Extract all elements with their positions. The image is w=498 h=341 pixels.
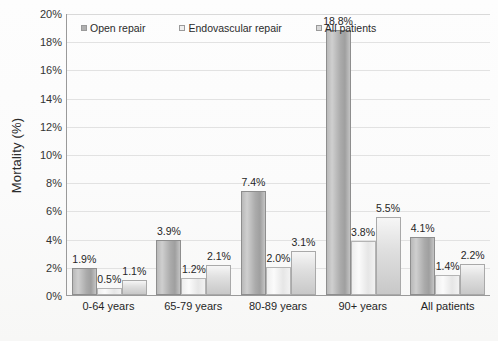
legend-item-1[interactable]: Endovascular repair xyxy=(179,22,281,34)
y-axis-tick-14: 14% xyxy=(40,93,62,105)
bar-fill xyxy=(72,268,97,295)
bar-fill xyxy=(266,267,291,295)
bar-group-4: 4.1%1.4%2.2% xyxy=(405,14,490,295)
bar-1-2[interactable]: 2.1% xyxy=(206,265,231,295)
bar-slot: 1.1% xyxy=(122,14,147,295)
y-axis-tick-16: 16% xyxy=(40,64,62,76)
bar-0-1[interactable]: 0.5% xyxy=(97,288,122,295)
bar-group-2: 7.4%2.0%3.1% xyxy=(236,14,321,295)
bar-value-label: 7.4% xyxy=(242,176,266,188)
bar-slot: 3.9% xyxy=(156,14,181,295)
bar-3-0[interactable]: 18.8% xyxy=(326,30,351,295)
bar-value-label: 2.1% xyxy=(207,250,231,262)
bar-slot: 5.5% xyxy=(376,14,401,295)
bar-slot: 1.2% xyxy=(181,14,206,295)
legend-swatch-icon xyxy=(316,25,322,31)
bar-group-1: 3.9%1.2%2.1% xyxy=(152,14,237,295)
bar-slot: 3.8% xyxy=(351,14,376,295)
bar-fill xyxy=(376,217,401,295)
bar-value-label: 0.5% xyxy=(97,273,121,285)
y-axis-tick-2: 2% xyxy=(46,262,62,274)
bar-value-label: 1.4% xyxy=(436,260,460,272)
bar-value-label: 3.9% xyxy=(157,225,181,237)
x-axis-tick-labels: 0-64 years65-79 years80-89 years90+ year… xyxy=(66,300,490,312)
y-axis-tick-labels: 20%18%16%14%12%10%8%6%4%2%0% xyxy=(26,14,62,296)
bar-4-0[interactable]: 4.1% xyxy=(410,237,435,295)
bar-fill xyxy=(241,191,266,295)
bar-3-1[interactable]: 3.8% xyxy=(351,241,376,295)
bar-fill xyxy=(460,264,485,295)
bar-fill xyxy=(156,240,181,295)
bar-value-label: 4.1% xyxy=(411,222,435,234)
bar-value-label: 1.9% xyxy=(72,253,96,265)
y-axis-tick-4: 4% xyxy=(46,234,62,246)
bar-slot: 1.9% xyxy=(72,14,97,295)
bar-2-0[interactable]: 7.4% xyxy=(241,191,266,295)
y-axis-title-text: Mortality (%) xyxy=(10,117,25,193)
bar-value-label: 1.1% xyxy=(122,265,146,277)
bar-slot: 2.2% xyxy=(460,14,485,295)
x-axis-tick-4: All patients xyxy=(405,300,490,312)
bar-0-0[interactable]: 1.9% xyxy=(72,268,97,295)
bar-1-1[interactable]: 1.2% xyxy=(181,278,206,295)
bar-value-label: 3.1% xyxy=(292,236,316,248)
legend-swatch-icon xyxy=(81,25,87,31)
y-axis-tick-12: 12% xyxy=(40,121,62,133)
bar-group-0: 1.9%0.5%1.1% xyxy=(67,14,152,295)
bar-group-3: 18.8%3.8%5.5% xyxy=(321,14,406,295)
bar-groups: 1.9%0.5%1.1%3.9%1.2%2.1%7.4%2.0%3.1%18.8… xyxy=(67,14,490,295)
legend-item-2[interactable]: All patients xyxy=(316,22,376,34)
bar-value-label: 5.5% xyxy=(376,202,400,214)
legend-swatch-icon xyxy=(179,25,185,31)
bar-slot: 2.0% xyxy=(266,14,291,295)
bar-slot: 0.5% xyxy=(97,14,122,295)
legend-label: Endovascular repair xyxy=(188,22,281,34)
bar-value-label: 2.2% xyxy=(461,249,485,261)
legend-item-0[interactable]: Open repair xyxy=(81,22,145,34)
plot-area: Open repairEndovascular repairAll patien… xyxy=(66,14,490,296)
bar-fill xyxy=(351,241,376,295)
bar-slot: 18.8% xyxy=(326,14,351,295)
bar-fill xyxy=(206,265,231,295)
bar-fill xyxy=(122,280,147,296)
bar-value-label: 2.0% xyxy=(267,252,291,264)
bar-3-2[interactable]: 5.5% xyxy=(376,217,401,295)
bar-fill xyxy=(326,30,351,295)
y-axis-title: Mortality (%) xyxy=(6,0,28,310)
y-axis-tick-8: 8% xyxy=(46,177,62,189)
bar-slot: 7.4% xyxy=(241,14,266,295)
y-axis-tick-18: 18% xyxy=(40,36,62,48)
bar-0-2[interactable]: 1.1% xyxy=(122,280,147,296)
x-axis-tick-0: 0-64 years xyxy=(66,300,151,312)
bar-2-1[interactable]: 2.0% xyxy=(266,267,291,295)
y-axis-tick-20: 20% xyxy=(40,8,62,20)
bar-slot: 4.1% xyxy=(410,14,435,295)
bar-slot: 3.1% xyxy=(291,14,316,295)
bar-1-0[interactable]: 3.9% xyxy=(156,240,181,295)
x-axis-tick-3: 90+ years xyxy=(320,300,405,312)
legend-label: Open repair xyxy=(90,22,145,34)
bar-slot: 1.4% xyxy=(435,14,460,295)
bar-fill xyxy=(291,251,316,295)
y-axis-tick-0: 0% xyxy=(46,290,62,302)
bar-2-2[interactable]: 3.1% xyxy=(291,251,316,295)
bar-fill xyxy=(97,288,122,295)
x-axis-tick-2: 80-89 years xyxy=(236,300,321,312)
bar-fill xyxy=(435,275,460,295)
bar-value-label: 1.2% xyxy=(182,263,206,275)
bar-4-2[interactable]: 2.2% xyxy=(460,264,485,295)
legend-label: All patients xyxy=(325,22,376,34)
bar-4-1[interactable]: 1.4% xyxy=(435,275,460,295)
chart-canvas: Mortality (%) 20%18%16%14%12%10%8%6%4%2%… xyxy=(0,0,498,341)
bar-fill xyxy=(410,237,435,295)
bar-fill xyxy=(181,278,206,295)
y-axis-tick-6: 6% xyxy=(46,205,62,217)
bar-value-label: 3.8% xyxy=(351,226,375,238)
chart-legend: Open repairEndovascular repairAll patien… xyxy=(81,22,376,34)
y-axis-tick-10: 10% xyxy=(40,149,62,161)
bar-slot: 2.1% xyxy=(206,14,231,295)
x-axis-tick-1: 65-79 years xyxy=(151,300,236,312)
